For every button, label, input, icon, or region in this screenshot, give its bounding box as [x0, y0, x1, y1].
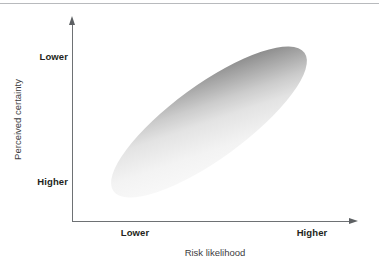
risk-certainty-ellipse: [92, 23, 326, 222]
risk-certainty-ellipse-svg: [0, 0, 379, 265]
y-axis-line: [72, 24, 73, 222]
x-axis-title: Risk likelihood: [140, 247, 290, 258]
x-axis-tick-higher: Higher: [287, 227, 337, 238]
plot-shape-layer: [0, 0, 379, 265]
x-axis-tick-lower: Lower: [110, 227, 160, 238]
y-axis-title: Perceived certainty: [12, 57, 23, 183]
top-divider: [0, 3, 379, 4]
arrow-right-icon: [349, 218, 358, 224]
risk-certainty-figure: Lower Higher Lower Higher Risk likelihoo…: [0, 0, 379, 265]
x-axis-line: [72, 221, 350, 222]
arrow-up-icon: [69, 16, 75, 25]
y-axis-tick-lower: Lower: [40, 51, 68, 62]
y-axis-tick-higher: Higher: [37, 176, 68, 187]
